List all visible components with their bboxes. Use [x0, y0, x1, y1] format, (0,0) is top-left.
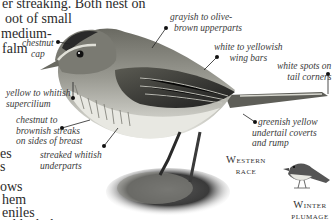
label-line: white to yellowish — [214, 42, 283, 53]
label-breast-streaks: chestnut to brownish streaks on sides of… — [16, 115, 82, 147]
palm-warbler-illustration — [0, 0, 335, 220]
caption-winter-plumage: Winter plumage — [282, 199, 335, 220]
label-line: chestnut — [22, 38, 54, 49]
leader-dot — [71, 96, 75, 100]
leader-dot — [102, 144, 106, 148]
label-line: greenish yellow — [252, 117, 318, 128]
caption-western-race: Western race — [216, 154, 276, 176]
label-supercilium: yellow to whitish supercilium — [6, 88, 70, 109]
label-line: white spots on — [277, 61, 331, 72]
leader-dot — [164, 26, 168, 30]
label-underparts: streaked whitish underparts — [40, 150, 102, 171]
caption-line: race — [216, 165, 276, 176]
label-line: brown upperparts — [170, 23, 242, 34]
label-line: chestnut to — [16, 115, 82, 126]
caption-line: Winter — [282, 199, 335, 210]
label-line: undertail coverts — [252, 128, 318, 139]
label-undertail: greenish yellow undertail coverts and ru… — [252, 117, 318, 149]
caption-line: plumage — [282, 210, 335, 220]
rock-perch — [106, 168, 230, 216]
label-line: and rump — [252, 138, 318, 149]
label-line: cap — [22, 49, 54, 60]
label-line: wing bars — [214, 53, 283, 64]
label-tail-corners: white spots on tail corners — [277, 61, 331, 82]
label-line: tail corners — [277, 72, 331, 83]
label-line: grayish to olive- — [170, 12, 242, 23]
label-line: brownish streaks — [16, 126, 82, 137]
label-line: streaked whitish — [40, 150, 102, 161]
label-line: underparts — [40, 161, 102, 172]
label-line: on sides of breast — [16, 136, 82, 147]
caption-line: Western — [216, 154, 276, 165]
leader-dot — [56, 40, 60, 44]
label-upperparts: grayish to olive- brown upperparts — [170, 12, 242, 33]
label-wing-bars: white to yellowish wing bars — [214, 42, 283, 63]
label-line: yellow to whitish — [6, 88, 70, 99]
winter-plumage-bird — [283, 164, 330, 189]
label-chestnut-cap: chestnut cap — [22, 38, 54, 59]
label-line: supercilium — [6, 99, 70, 110]
